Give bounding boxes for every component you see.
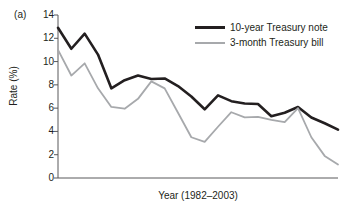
legend-item-bill: 3-month Treasury bill xyxy=(195,35,345,50)
y-axis-tick-label: 0 xyxy=(14,173,54,183)
legend-label-note: 10-year Treasury note xyxy=(230,22,328,34)
y-axis-tick-label: 12 xyxy=(14,33,54,43)
y-axis-tick-label: 2 xyxy=(14,150,54,160)
y-axis-tick-label: 6 xyxy=(14,103,54,113)
y-axis-ticks xyxy=(54,15,58,178)
chart-legend: 10-year Treasury note 3-month Treasury b… xyxy=(195,20,345,50)
y-axis-tick-label: 10 xyxy=(14,57,54,67)
y-axis-tick-labels: 02468101214 xyxy=(10,0,54,211)
legend-item-note: 10-year Treasury note xyxy=(195,20,345,35)
y-axis-tick-label: 4 xyxy=(14,126,54,136)
legend-line-icon-note xyxy=(195,23,225,33)
y-axis-tick-label: 8 xyxy=(14,80,54,90)
y-axis-tick-label: 14 xyxy=(14,10,54,20)
x-axis-title: Year (1982–2003) xyxy=(58,190,338,202)
chart-figure: (a) Rate (%) Year (1982–2003) 0246810121… xyxy=(0,0,359,211)
legend-label-bill: 3-month Treasury bill xyxy=(230,37,323,49)
legend-line-icon-bill xyxy=(195,38,225,48)
